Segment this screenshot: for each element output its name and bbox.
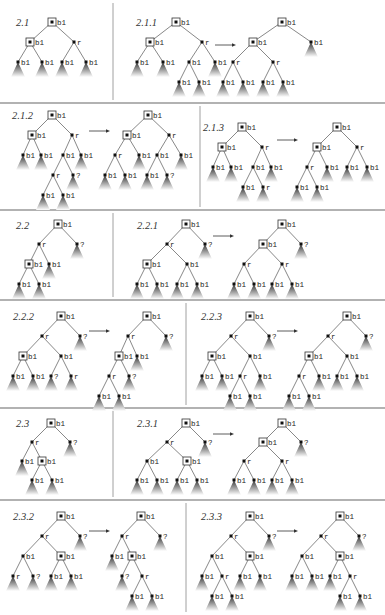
subtree-node: ? — [70, 241, 85, 259]
node-dot-icon — [178, 81, 181, 84]
node-dot-icon — [326, 166, 329, 169]
tree-node: b1 — [123, 131, 142, 140]
node-label: b1 — [257, 281, 267, 289]
tree-node: b1 — [301, 553, 315, 561]
node-dot-icon — [281, 223, 284, 226]
subtree-node: b1 — [215, 373, 235, 391]
node-dot-icon — [196, 479, 199, 482]
node-label: ? — [83, 333, 88, 341]
node-dot-icon — [29, 41, 32, 44]
node-dot-icon — [320, 535, 323, 538]
subtree-node: b1 — [42, 261, 62, 279]
node-label: b1 — [263, 573, 273, 581]
subtree-node: b1 — [236, 184, 256, 202]
node-dot-icon — [288, 395, 291, 398]
node-label: b1 — [150, 458, 160, 466]
subtree-node: b1 — [360, 164, 380, 182]
subtree-node: ? — [153, 533, 168, 551]
node-label: b1 — [140, 59, 150, 67]
tree-node: r — [166, 241, 175, 249]
node-label: b1 — [35, 477, 45, 485]
subtree-node: b1 — [253, 573, 273, 591]
node-label: b1 — [166, 59, 176, 67]
node-dot-icon — [298, 375, 301, 378]
node-label: b1 — [37, 132, 47, 140]
tree-node: b1 — [38, 457, 57, 466]
node-dot-icon — [136, 61, 139, 64]
node-dot-icon — [73, 41, 76, 44]
subtree-node: ? — [159, 333, 174, 351]
node-dot-icon — [308, 395, 311, 398]
tree-node: r — [114, 152, 123, 160]
node-dot-icon — [60, 555, 63, 558]
subtree-node: b1 — [74, 152, 94, 170]
node-label: r — [74, 373, 79, 381]
tree-before: b1b1b1rb1b1b1b1r?b1 — [195, 512, 277, 611]
node-label: b1 — [312, 393, 322, 401]
node-label: b1 — [200, 281, 210, 289]
node-label: ? — [169, 333, 174, 341]
tree-node: b1 — [305, 352, 324, 361]
node-dot-icon — [124, 174, 127, 177]
node-dot-icon — [118, 395, 121, 398]
subtree-node: b1 — [224, 164, 244, 182]
node-label: b1 — [345, 553, 355, 561]
subtree-node: b1 — [56, 192, 76, 210]
tree-node: b1 — [146, 458, 160, 466]
node-label: r — [131, 333, 136, 341]
node-dot-icon — [118, 355, 121, 358]
tree-node: b1 — [57, 552, 76, 561]
node-label: b1 — [42, 281, 52, 289]
node-dot-icon — [259, 375, 262, 378]
node-label: b1 — [256, 164, 266, 172]
node-dot-icon — [146, 174, 149, 177]
node-dot-icon — [41, 460, 44, 463]
node-dot-icon — [41, 335, 44, 338]
node-dot-icon — [204, 441, 207, 444]
node-dot-icon — [149, 41, 152, 44]
tree-node: b1 — [156, 152, 170, 160]
node-dot-icon — [252, 166, 255, 169]
subtree-node: b1 — [353, 593, 373, 611]
tree-node: r — [320, 533, 329, 541]
subtree-node: b1 — [310, 184, 330, 202]
arrow-head-icon — [106, 529, 110, 533]
node-label: b1 — [146, 513, 156, 521]
node-label: b1 — [140, 477, 150, 485]
tree-node: b1 — [48, 18, 67, 27]
node-label: b1 — [160, 477, 170, 485]
node-label: b1 — [217, 353, 227, 361]
node-dot-icon — [41, 535, 44, 538]
tree-node: b1 — [183, 457, 202, 466]
node-label: b1 — [55, 477, 65, 485]
tree-after: b1b1rb1b1b1b1rb1 — [290, 123, 380, 202]
subtree-node: b1 — [350, 373, 370, 391]
node-label: b1 — [350, 164, 360, 172]
panel-label: 2.1 — [16, 17, 29, 28]
subtree-node: b1 — [304, 39, 324, 57]
node-label: b1 — [135, 593, 145, 601]
node-label: b1 — [132, 132, 142, 140]
node-label: b1 — [275, 281, 285, 289]
node-label: b1 — [342, 124, 352, 132]
node-dot-icon — [230, 335, 233, 338]
subtree-node: b1 — [130, 477, 150, 495]
node-dot-icon — [51, 21, 54, 24]
node-label: b1 — [57, 19, 67, 27]
subtree-node: b1 — [233, 573, 253, 591]
node-label: b1 — [108, 172, 118, 180]
node-dot-icon — [261, 146, 264, 149]
node-label: b1 — [128, 172, 138, 180]
node-dot-icon — [72, 174, 75, 177]
node-label: b1 — [160, 152, 170, 160]
node-label: b1 — [363, 593, 373, 601]
panels: 2.1b1b1b1b1b1rb12.1.1b1b1b1b1b1b1b1rb1b1… — [6, 17, 380, 611]
node-dot-icon — [136, 479, 139, 482]
node-dot-icon — [359, 595, 362, 598]
node-dot-icon — [281, 460, 284, 463]
node-label: b1 — [300, 184, 310, 192]
subtree-node: b1 — [15, 458, 35, 476]
node-label: ? — [170, 172, 175, 180]
node-label: b1 — [268, 241, 278, 249]
subtree-node: b1 — [253, 373, 273, 391]
